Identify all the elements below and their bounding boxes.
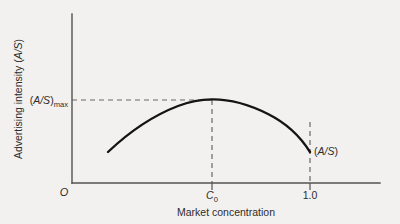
curve-label-close: ) bbox=[334, 145, 338, 157]
y-axis-title-italic: A/S bbox=[12, 42, 24, 60]
advertising-intensity-chart: Advertising intensity (A/S) Market conce… bbox=[0, 0, 400, 224]
y-axis-title: Advertising intensity (A/S) bbox=[12, 39, 24, 159]
x-tick-label-one: 1.0 bbox=[303, 189, 318, 201]
y-axis-title-base: Advertising intensity ( bbox=[12, 59, 24, 159]
curve-label-italic: A/S bbox=[317, 145, 335, 157]
y-axis-title-close: ) bbox=[12, 39, 24, 43]
c0-label-subscript: 0 bbox=[214, 195, 218, 204]
origin-label: O bbox=[60, 186, 69, 198]
max-label-subscript: max bbox=[54, 100, 69, 109]
curve-annotation-label: (A/S) bbox=[314, 145, 338, 157]
chart-figure: Advertising intensity (A/S) Market conce… bbox=[0, 0, 400, 224]
x-axis-title: Market concentration bbox=[177, 206, 275, 218]
max-label-italic: A/S bbox=[32, 94, 50, 106]
